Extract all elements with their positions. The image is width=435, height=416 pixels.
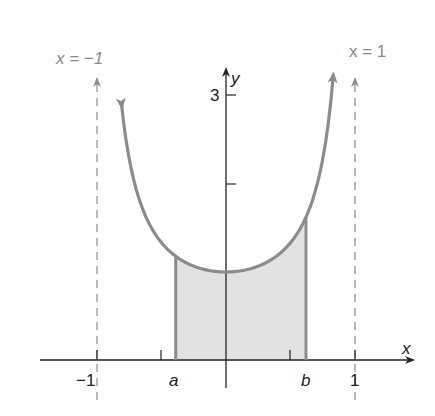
x-axis-label: x bbox=[401, 339, 411, 358]
graph-svg: x = −1 x = 1 y 3 x −1 a b 1 bbox=[0, 0, 435, 416]
x-tick-label-b: b bbox=[301, 371, 310, 390]
x-tick-label-a: a bbox=[169, 371, 178, 390]
asymptote-left-label: x = −1 bbox=[55, 49, 103, 68]
x-tick-label-neg-one: −1 bbox=[76, 371, 95, 390]
asymptote-right-label: x = 1 bbox=[349, 42, 386, 61]
shaded-area-region bbox=[176, 217, 306, 360]
y-axis-label: y bbox=[230, 69, 241, 88]
y-tick-label-3: 3 bbox=[210, 86, 219, 105]
graph-figure: x = −1 x = 1 y 3 x −1 a b 1 bbox=[0, 0, 435, 416]
x-tick-label-one: 1 bbox=[350, 371, 359, 390]
